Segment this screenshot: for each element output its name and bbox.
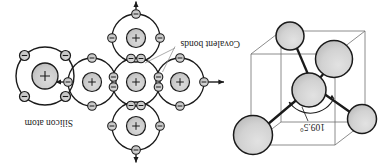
- crystal-atom-left: [348, 105, 377, 134]
- crystal-atom-top-right: [234, 116, 273, 155]
- crystal-atom-bottom: [276, 22, 304, 50]
- silicon-structure-figure: 109.5°: [0, 0, 381, 164]
- covalent-bonds-label: Covalent bonds: [180, 39, 240, 49]
- silicon-atom-label: Silicon atom: [24, 118, 73, 128]
- crystal-atom-lower-left: [316, 41, 353, 78]
- crystal-atom-center: [292, 73, 326, 107]
- bond-angle-label: 109.5°: [300, 122, 325, 132]
- figure-canvas: 109.5°: [0, 0, 381, 164]
